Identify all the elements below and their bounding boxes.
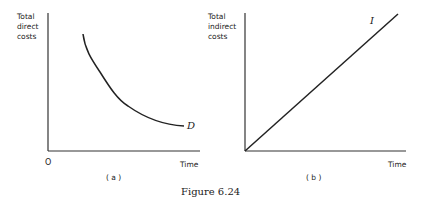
panel-b-ylabel-line2: indirect [208,22,236,32]
panel-a-label: ( a ) [106,173,121,183]
panel-a-ylabel-line1: Total [17,12,35,22]
panel-a-curve-label: D [187,120,195,131]
panel-b-ylabel-line3: costs [208,32,227,42]
panel-b-curve-label: I [370,15,374,26]
panel-b-ylabel-line1: Total [208,12,226,22]
panel-b-label: ( b ) [306,173,321,183]
panel-a-xlabel: Time [180,160,198,170]
panel-a-ylabel-line3: costs [17,32,36,42]
line-i [245,14,398,151]
panel-a-origin-label: O [45,158,51,168]
figure-caption: Figure 6.24 [181,186,240,197]
panel-b-xlabel: Time [388,160,406,170]
panel-a-ylabel-line2: direct [17,22,38,32]
curve-d [83,34,184,126]
